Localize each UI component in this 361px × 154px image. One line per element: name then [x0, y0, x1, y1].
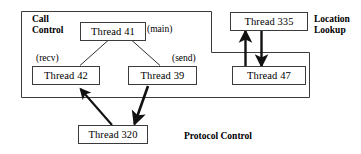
group-label-location-lookup: Location Lookup — [314, 14, 360, 35]
node-thread-39[interactable]: Thread 39 — [128, 66, 197, 85]
annotation-send: (send) — [172, 53, 196, 63]
node-label-thread-320: Thread 320 — [88, 129, 137, 140]
node-label-thread-335: Thread 335 — [244, 16, 293, 27]
node-thread-47[interactable]: Thread 47 — [232, 66, 306, 85]
edge-thread41-thread39 — [132, 41, 160, 66]
node-label-thread-41: Thread 41 — [91, 26, 135, 37]
edge-thread39-thread320 — [135, 86, 149, 124]
node-label-thread-42: Thread 42 — [44, 70, 88, 81]
edge-thread320-thread42 — [81, 89, 113, 125]
node-thread-335[interactable]: Thread 335 — [230, 12, 308, 31]
group-label-call-control: Call Control — [32, 14, 92, 35]
node-thread-320[interactable]: Thread 320 — [78, 125, 148, 144]
edge-thread41-thread42 — [80, 41, 108, 66]
diagram-canvas: Call Control Location Lookup Protocol Co… — [0, 0, 361, 154]
annotation-main: (main) — [147, 24, 172, 34]
node-label-thread-47: Thread 47 — [247, 70, 291, 81]
node-thread-42[interactable]: Thread 42 — [32, 66, 100, 85]
group-label-protocol-control: Protocol Control — [184, 131, 294, 142]
node-label-thread-39: Thread 39 — [141, 70, 185, 81]
annotation-recv: (recv) — [36, 53, 59, 63]
